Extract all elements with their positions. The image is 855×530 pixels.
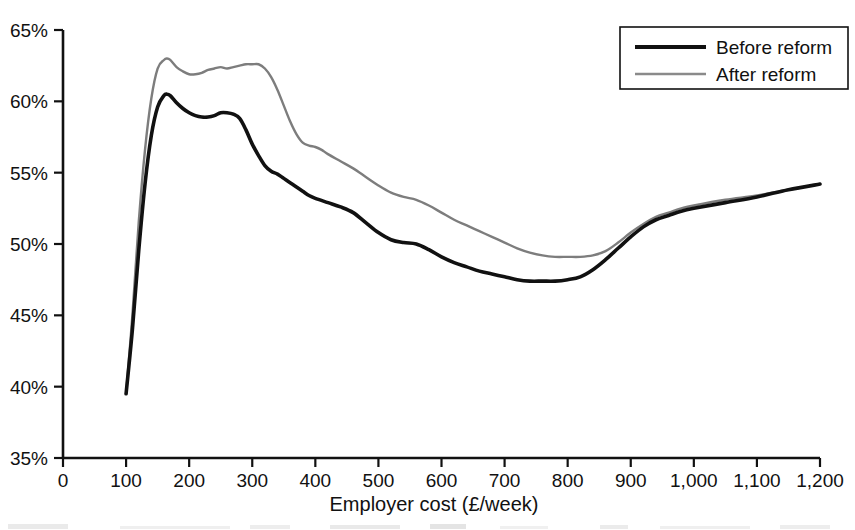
x-axis-tick-label: 900 xyxy=(615,470,647,491)
y-axis-tick-label: 60% xyxy=(10,91,48,112)
x-axis-tick-label: 1,200 xyxy=(796,470,844,491)
y-axis-tick-label: 65% xyxy=(10,20,48,41)
x-axis-tick-label: 1,000 xyxy=(670,470,718,491)
legend-label-after-reform: After reform xyxy=(716,64,816,85)
x-axis-tick-label: 500 xyxy=(363,470,395,491)
x-axis-tick-label: 600 xyxy=(426,470,458,491)
x-axis-title: Employer cost (£/week) xyxy=(330,493,539,515)
x-axis-tick-label: 700 xyxy=(489,470,521,491)
x-axis-tick-label: 1,100 xyxy=(733,470,781,491)
legend: Before reform After reform xyxy=(620,27,848,89)
x-axis-tick-label: 300 xyxy=(236,470,268,491)
x-axis-tick-label: 800 xyxy=(552,470,584,491)
y-axis-tick-label: 50% xyxy=(10,234,48,255)
line-chart: 35%40%45%50%55%60%65% 010020030040050060… xyxy=(0,0,855,530)
y-axis-tick-label: 45% xyxy=(10,305,48,326)
x-axis-tick-label: 100 xyxy=(110,470,142,491)
y-axis-tick-label: 35% xyxy=(10,448,48,469)
x-axis-tick-label: 400 xyxy=(299,470,331,491)
y-axis-tick-label: 40% xyxy=(10,377,48,398)
legend-label-before-reform: Before reform xyxy=(716,37,832,58)
y-axis-tick-label: 55% xyxy=(10,163,48,184)
x-axis-tick-label: 200 xyxy=(173,470,205,491)
x-axis-tick-label: 0 xyxy=(58,470,69,491)
